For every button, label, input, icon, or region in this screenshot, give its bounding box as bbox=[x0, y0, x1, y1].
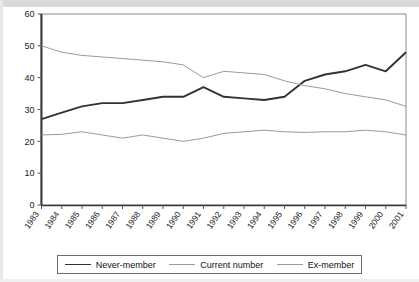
chart-svg: 0102030405060 19831984198519861987198819… bbox=[0, 0, 419, 282]
y-tick-label: 0 bbox=[29, 200, 34, 210]
x-tick-label: 1986 bbox=[83, 209, 102, 230]
chart-legend: Never-member Current number Ex-member bbox=[57, 255, 362, 274]
x-tick-label: 2001 bbox=[387, 209, 406, 230]
x-tick-label: 1999 bbox=[346, 209, 365, 230]
x-tick-label: 1996 bbox=[285, 209, 304, 230]
x-tick-label: 1991 bbox=[184, 209, 203, 230]
legend-item-current-number: Current number bbox=[169, 260, 263, 270]
x-tick-label: 1995 bbox=[265, 209, 284, 230]
legend-label-ex-member: Ex-member bbox=[308, 260, 355, 270]
x-tick-label: 1997 bbox=[306, 209, 325, 230]
x-tick-label: 1992 bbox=[204, 209, 223, 230]
x-tick-label: 1984 bbox=[42, 209, 61, 230]
x-tick-label: 1994 bbox=[245, 209, 264, 230]
legend-swatch-never-member bbox=[65, 264, 91, 265]
y-tick-label: 50 bbox=[24, 41, 34, 51]
y-axis-ticks: 0102030405060 bbox=[24, 9, 41, 210]
y-tick-label: 60 bbox=[24, 9, 34, 19]
legend-item-ex-member: Ex-member bbox=[277, 260, 355, 270]
x-tick-label: 1985 bbox=[63, 209, 82, 230]
y-tick-label: 30 bbox=[24, 105, 34, 115]
x-axis-ticks: 1983198419851986198719881989199019911992… bbox=[22, 205, 406, 231]
x-tick-label: 1998 bbox=[326, 209, 345, 230]
x-tick-label: 2000 bbox=[366, 209, 385, 230]
x-tick-label: 1988 bbox=[123, 209, 142, 230]
plot-frame bbox=[41, 14, 406, 206]
line-chart-figure: 0102030405060 19831984198519861987198819… bbox=[0, 0, 419, 282]
x-tick-label: 1989 bbox=[144, 209, 163, 230]
x-tick-label: 1983 bbox=[22, 209, 41, 230]
plot-area-border bbox=[41, 14, 406, 205]
y-tick-label: 40 bbox=[24, 73, 34, 83]
y-tick-label: 10 bbox=[24, 168, 34, 178]
x-tick-label: 1990 bbox=[164, 209, 183, 230]
x-tick-label: 1987 bbox=[103, 209, 122, 230]
legend-swatch-current-number bbox=[169, 264, 195, 265]
legend-item-never-member: Never-member bbox=[65, 260, 156, 270]
y-tick-label: 20 bbox=[24, 137, 34, 147]
x-tick-label: 1993 bbox=[225, 209, 244, 230]
legend-swatch-ex-member bbox=[277, 264, 303, 265]
legend-label-never-member: Never-member bbox=[96, 260, 156, 270]
legend-label-current-number: Current number bbox=[200, 260, 263, 270]
